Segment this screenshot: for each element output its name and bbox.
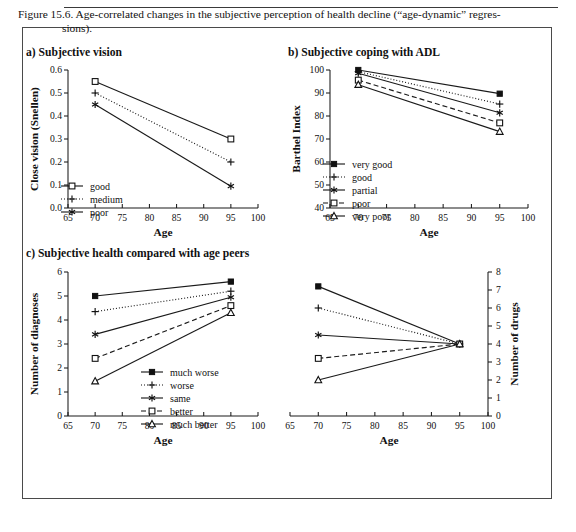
x-tick-label: 65 bbox=[285, 420, 295, 431]
y-axis-title: Number of drugs bbox=[508, 302, 520, 386]
y-tick-label: 4 bbox=[57, 314, 62, 325]
legend-label: worse bbox=[170, 380, 194, 391]
series-better bbox=[315, 341, 462, 361]
data-marker-open-square bbox=[228, 303, 234, 309]
data-marker-asterisk bbox=[228, 183, 234, 190]
series-much-worse bbox=[316, 284, 463, 347]
legend-glyph-open-square bbox=[61, 183, 83, 189]
x-tick-label: 70 bbox=[313, 420, 323, 431]
chart-number-of-diagnoses: 0123456Number of diagnoses65707580859095… bbox=[16, 262, 268, 462]
x-tick-label: 100 bbox=[521, 212, 536, 223]
data-marker-filled-square bbox=[228, 279, 233, 284]
y-tick-label: 1 bbox=[496, 392, 501, 403]
series-line bbox=[318, 344, 459, 358]
x-tick-label: 75 bbox=[117, 212, 127, 223]
data-marker-open-square bbox=[228, 136, 234, 142]
y-axis-title: Close vision (Snellen) bbox=[28, 87, 41, 191]
y-tick-label: 2 bbox=[496, 374, 501, 385]
y-tick-label: 0.1 bbox=[50, 179, 62, 190]
y-tick-label: 5 bbox=[57, 290, 62, 301]
x-tick-label: 100 bbox=[251, 212, 266, 223]
series-line bbox=[358, 85, 499, 132]
data-marker-open-triangle bbox=[92, 378, 99, 384]
x-tick-label: 90 bbox=[199, 212, 209, 223]
data-marker-plus bbox=[148, 381, 155, 388]
legend-glyph-plus bbox=[323, 173, 345, 180]
x-tick-label: 95 bbox=[495, 212, 505, 223]
caption-line-2: sions). bbox=[18, 22, 514, 36]
x-tick-label: 65 bbox=[63, 420, 73, 431]
series-line bbox=[318, 335, 459, 344]
series-much-better bbox=[315, 340, 463, 382]
series-better bbox=[92, 303, 234, 362]
data-marker-open-square bbox=[497, 120, 503, 126]
legend-glyph-plus bbox=[61, 195, 83, 202]
x-tick-label: 75 bbox=[342, 420, 352, 431]
series-very-good bbox=[356, 67, 503, 96]
x-tick-label: 85 bbox=[398, 420, 408, 431]
data-marker-plus bbox=[330, 173, 337, 180]
legend-label: poor bbox=[90, 207, 109, 218]
y-tick-label: 0.5 bbox=[50, 87, 62, 98]
legend-label: better bbox=[170, 406, 193, 417]
series-line bbox=[95, 306, 231, 359]
series-line bbox=[358, 80, 499, 123]
chart-number-of-drugs: 012345678Number of drugs6570758085909510… bbox=[278, 262, 540, 462]
data-marker-filled-square bbox=[497, 91, 502, 96]
x-tick-label: 95 bbox=[455, 420, 465, 431]
x-axis-title: Age bbox=[154, 434, 173, 446]
x-axis-title: Age bbox=[420, 226, 439, 238]
data-marker-open-square bbox=[69, 183, 75, 189]
legend-label: same bbox=[170, 393, 191, 404]
figure-caption: Figure 15.6. Age-correlated changes in t… bbox=[18, 8, 514, 35]
x-tick-label: 90 bbox=[467, 212, 477, 223]
series-poor bbox=[92, 101, 234, 190]
y-tick-label: 0 bbox=[496, 410, 501, 421]
x-tick-label: 75 bbox=[117, 420, 127, 431]
series-line bbox=[95, 105, 231, 187]
data-marker-plus bbox=[92, 308, 99, 315]
data-marker-plus bbox=[68, 195, 75, 202]
legend-glyph-asterisk bbox=[323, 186, 345, 193]
y-tick-label: 2 bbox=[57, 362, 62, 373]
series-line bbox=[318, 286, 459, 344]
series-line bbox=[95, 297, 231, 334]
data-marker-asterisk bbox=[92, 101, 98, 108]
y-tick-label: 5 bbox=[496, 320, 501, 331]
x-axis-title: Age bbox=[154, 226, 173, 238]
series-line bbox=[318, 308, 459, 344]
x-tick-label: 85 bbox=[172, 212, 182, 223]
y-tick-label: 70 bbox=[314, 133, 324, 144]
series-line bbox=[358, 70, 499, 94]
y-tick-label: 50 bbox=[314, 179, 324, 190]
series-line bbox=[358, 72, 499, 104]
x-tick-label: 100 bbox=[251, 420, 266, 431]
data-marker-open-square bbox=[92, 356, 98, 362]
legend-label: very poor bbox=[352, 211, 391, 222]
data-marker-asterisk bbox=[497, 109, 503, 116]
data-marker-open-square bbox=[315, 356, 321, 362]
data-marker-asterisk bbox=[92, 331, 98, 338]
data-marker-filled-square bbox=[331, 161, 336, 166]
legend-glyph-asterisk bbox=[141, 394, 163, 401]
legend-a: goodmediumpoor bbox=[61, 181, 123, 218]
data-marker-asterisk bbox=[228, 294, 234, 301]
series-line bbox=[95, 93, 231, 162]
series-good bbox=[92, 79, 234, 142]
legend-glyph-filled-square bbox=[141, 369, 163, 374]
series-partial bbox=[355, 70, 503, 117]
legend-label: much better bbox=[170, 419, 218, 430]
legend-label: medium bbox=[90, 194, 123, 205]
series-line bbox=[95, 82, 231, 140]
data-marker-filled-square bbox=[316, 284, 321, 289]
series-line bbox=[95, 282, 231, 296]
y-tick-label: 0.3 bbox=[50, 133, 62, 144]
legend-glyph-plus bbox=[141, 381, 163, 388]
series-line bbox=[318, 344, 459, 380]
x-axis-title: Age bbox=[380, 434, 399, 446]
y-tick-label: 0.4 bbox=[50, 110, 62, 121]
x-tick-label: 80 bbox=[410, 212, 420, 223]
series-worse bbox=[315, 304, 464, 347]
y-tick-label: 0.2 bbox=[50, 156, 62, 167]
y-tick-label: 3 bbox=[57, 338, 62, 349]
